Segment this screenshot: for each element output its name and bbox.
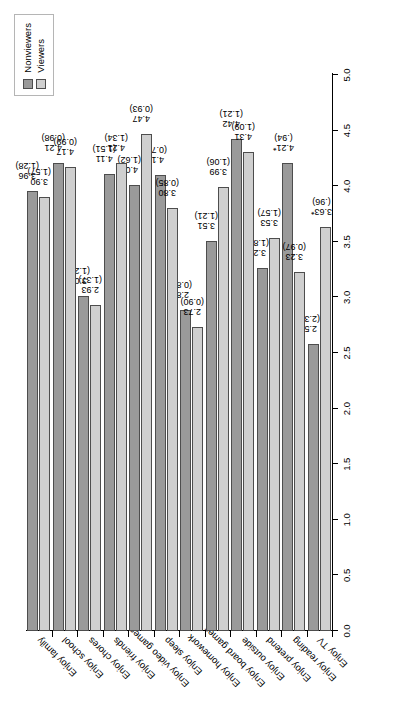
category-tick (307, 631, 308, 637)
x-axis-tick (332, 185, 338, 186)
category-tick (205, 631, 206, 637)
legend-item-nonviewers: Nonviewers (22, 23, 33, 89)
legend-label-nonviewers: Nonviewers (22, 23, 33, 73)
value-label-viewers: 3.53(1.57) (257, 208, 281, 227)
value-label-viewers: 4.21(1.34) (104, 132, 128, 151)
x-axis-tick-label: 3.5 (341, 235, 352, 248)
x-axis-tick (332, 241, 338, 242)
x-axis-tick (332, 519, 338, 520)
bar-viewers (269, 238, 280, 631)
x-axis-tick-label: 1.5 (341, 458, 352, 471)
x-axis-tick-label: 0.0 (341, 624, 352, 637)
x-axis-tick (332, 352, 338, 353)
x-axis-tick-label: 5.0 (341, 68, 352, 81)
bar-viewers (90, 305, 101, 631)
bar-viewers (167, 208, 178, 631)
bar-viewers (192, 327, 203, 631)
x-axis-tick-label: 0.5 (341, 569, 352, 582)
bar-viewers (218, 187, 229, 631)
value-label-viewers: 3.90(1.57) (28, 167, 52, 186)
bar-chart-figure: 0.00.51.01.52.02.53.03.54.04.55.0 Enjoy … (0, 0, 393, 705)
category-tick (256, 631, 257, 637)
value-label-viewers: 4.17(0.99) (53, 137, 77, 156)
x-axis-tick-label: 1.0 (341, 513, 352, 526)
value-label-viewers: 3.99(1.06) (206, 157, 230, 176)
bar-viewers (116, 163, 127, 631)
value-label-nonviewers: 3.51(1.21) (194, 210, 218, 229)
x-axis-tick (332, 296, 338, 297)
bar-nonviewers (155, 175, 166, 631)
x-axis-tick-label: 3.0 (341, 291, 352, 304)
bar-viewers (294, 272, 305, 631)
x-axis-tick-label: 4.5 (341, 124, 352, 137)
value-label-viewers: 3.80(0.85) (155, 178, 179, 197)
value-label-viewers: 2.93(1.37) (79, 275, 103, 294)
bar-nonviewers (231, 140, 242, 632)
x-axis-tick-label: 2.5 (341, 346, 352, 359)
x-axis-tick (332, 463, 338, 464)
category-tick (332, 631, 333, 637)
bar-nonviewers (53, 163, 64, 631)
bar-nonviewers (206, 241, 217, 631)
legend-item-viewers: Viewers (35, 23, 46, 89)
bar-nonviewers (282, 163, 293, 631)
category-tick (230, 631, 231, 637)
bar-nonviewers (27, 191, 38, 631)
x-axis-tick (332, 574, 338, 575)
x-axis-tick (332, 130, 338, 131)
bar-viewers (141, 134, 152, 631)
bar-viewers (65, 167, 76, 631)
bar-nonviewers (129, 185, 140, 631)
bar-viewers (320, 227, 331, 631)
x-axis-tick-label: 2.0 (341, 402, 352, 415)
legend-swatch-nonviewers (23, 79, 33, 89)
legend-label-viewers: Viewers (35, 39, 46, 73)
bar-viewers (243, 152, 254, 631)
bar-nonviewers (180, 310, 191, 631)
value-label-nonviewers: 4.21*(.94) (273, 132, 294, 151)
value-label-viewers: 2.73(0.90) (181, 297, 205, 316)
bar-nonviewers (308, 344, 319, 631)
value-label-viewers: 3.23(0.97) (283, 241, 307, 260)
value-label-viewers: 4.47(0.93) (130, 104, 154, 123)
bar-nonviewers (78, 296, 89, 631)
category-tick (281, 631, 282, 637)
value-label-viewers: 4.31(1.09) (232, 121, 256, 140)
x-axis-tick (332, 74, 338, 75)
category-tick (77, 631, 78, 637)
bar-nonviewers (104, 174, 115, 631)
category-tick (103, 631, 104, 637)
rotated-figure-wrapper: 0.00.51.01.52.02.53.03.54.04.55.0 Enjoy … (0, 0, 393, 705)
x-axis-tick-label: 4.0 (341, 180, 352, 193)
category-tick (52, 631, 53, 637)
category-tick (128, 631, 129, 637)
category-tick (179, 631, 180, 637)
value-label-viewers: 3.63*(.96) (311, 197, 332, 216)
legend-swatch-viewers (36, 79, 46, 89)
category-tick (154, 631, 155, 637)
bar-nonviewers (257, 269, 268, 632)
bar-viewers (39, 197, 50, 631)
chart-legend: Nonviewers Viewers (14, 14, 54, 96)
x-axis-tick (332, 408, 338, 409)
